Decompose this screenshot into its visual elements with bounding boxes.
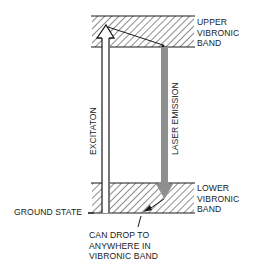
lower-band-label-line1: LOWER	[197, 183, 239, 194]
upper-band-label-line2: VIBRONIC	[197, 28, 239, 39]
upper-band-label-line3: BAND	[197, 38, 239, 49]
lower-band-label: LOWER VIBRONIC BAND	[197, 183, 239, 215]
drop-note-line1: CAN DROP TO	[89, 230, 158, 241]
note-pointer	[138, 216, 141, 227]
upper-band-label: UPPER VIBRONIC BAND	[197, 17, 239, 49]
lower-band-label-line3: BAND	[197, 204, 239, 215]
excitation-label: EXCITATON	[88, 107, 98, 155]
lower-band-label-line2: VIBRONIC	[197, 194, 239, 205]
ground-state-label: GROUND STATE	[14, 207, 82, 218]
drop-note: CAN DROP TO ANYWHERE IN VIBRONIC BAND	[89, 230, 158, 262]
laser-emission-label: LASER EMISSION	[170, 82, 180, 155]
drop-note-line3: VIBRONIC BAND	[89, 251, 158, 262]
upper-band-label-line1: UPPER	[197, 17, 239, 28]
drop-note-line2: ANYWHERE IN	[89, 241, 158, 252]
